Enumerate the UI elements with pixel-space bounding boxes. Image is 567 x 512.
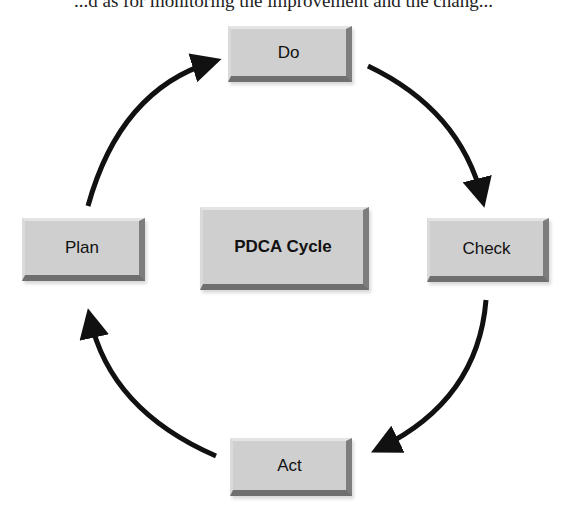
node-act: Act [230,438,352,496]
node-plan-label: Plan [65,238,99,258]
node-check: Check [427,218,549,282]
node-check-label: Check [462,239,510,259]
arrow-check-to-act [380,300,486,448]
node-pdca-cycle: PDCA Cycle [200,207,369,290]
arrow-plan-to-do [88,62,212,206]
node-do-label: Do [278,43,300,63]
diagram-title: PDCA Cycle [234,237,332,257]
node-do: Do [228,26,352,82]
arrow-act-to-plan [90,318,216,456]
node-plan: Plan [22,218,145,281]
arrow-do-to-check [368,66,482,198]
node-act-label: Act [277,456,302,476]
